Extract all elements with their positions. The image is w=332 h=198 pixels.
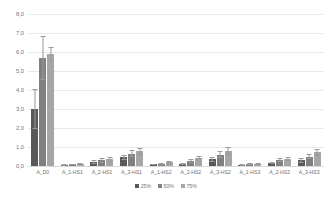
error-bar xyxy=(109,157,110,162)
legend-item[interactable]: 75% xyxy=(181,183,197,189)
error-bar xyxy=(34,89,35,129)
bar-groups xyxy=(28,14,324,166)
y-axis-tick-label: 6,0 xyxy=(0,49,24,55)
bar-group xyxy=(235,14,265,166)
error-bar xyxy=(241,164,242,166)
bar-group xyxy=(117,14,147,166)
bar-slot xyxy=(217,14,224,166)
y-axis-tick-label: 3,0 xyxy=(0,106,24,112)
bar-slot xyxy=(61,14,68,166)
bar-slot xyxy=(158,14,165,166)
gridline xyxy=(28,166,324,167)
bar-slot xyxy=(187,14,194,166)
error-bar xyxy=(72,164,73,166)
error-bar xyxy=(182,163,183,165)
x-axis-tick-label: A_3-HS2 xyxy=(206,169,236,176)
error-bar xyxy=(42,36,43,80)
error-bar xyxy=(317,149,318,157)
bar-group xyxy=(58,14,88,166)
y-axis-tick-label: 7,0 xyxy=(0,30,24,36)
bar-group xyxy=(28,14,58,166)
bar-slot xyxy=(246,14,253,166)
x-axis-tick-label: A_1-HS1 xyxy=(58,169,88,176)
error-bar xyxy=(101,158,102,163)
error-bar xyxy=(139,148,140,155)
error-bar xyxy=(287,157,288,162)
bar-slot xyxy=(314,14,321,166)
error-bar xyxy=(228,147,229,155)
error-bar xyxy=(169,161,170,164)
bar-slot xyxy=(268,14,275,166)
x-axis-tick-label: A_D0 xyxy=(28,169,58,176)
bar-group xyxy=(206,14,236,166)
error-bar xyxy=(257,163,258,165)
error-bar xyxy=(212,157,213,162)
error-bar xyxy=(271,162,272,165)
error-bar xyxy=(309,154,310,160)
bar-slot xyxy=(284,14,291,166)
bar-slot xyxy=(69,14,76,166)
bar-slot xyxy=(254,14,261,166)
error-bar xyxy=(161,163,162,165)
bar-slot xyxy=(136,14,143,166)
bar-group xyxy=(87,14,117,166)
bar-slot xyxy=(77,14,84,166)
bar-group xyxy=(265,14,295,166)
error-bar xyxy=(220,151,221,159)
x-axis-tick-label: A_3-HS1 xyxy=(117,169,147,176)
legend-swatch-icon xyxy=(181,184,185,188)
bar-slot xyxy=(98,14,105,166)
chart-legend: 25%50%75% xyxy=(0,183,332,189)
error-bar xyxy=(198,156,199,161)
x-axis-tick-label: A_2-HS1 xyxy=(87,169,117,176)
bar-slot xyxy=(306,14,313,166)
x-axis-tick-label: A_1-HS2 xyxy=(146,169,176,176)
error-bar xyxy=(93,160,94,164)
y-axis-tick-label: 4,0 xyxy=(0,87,24,93)
bar-slot xyxy=(90,14,97,166)
error-bar xyxy=(249,163,250,165)
bar-slot xyxy=(128,14,135,166)
error-bar xyxy=(50,47,51,60)
error-bar xyxy=(190,159,191,163)
error-bar xyxy=(153,164,154,166)
bar-chart: 0,01,02,03,04,05,06,07,08,0 A_D0A_1-HS1A… xyxy=(0,0,332,198)
y-axis-tick-label: 2,0 xyxy=(0,125,24,131)
bar-slot xyxy=(209,14,216,166)
x-axis-tick-label: A_2-HS3 xyxy=(265,169,295,176)
bar-slot xyxy=(106,14,113,166)
bar-slot xyxy=(179,14,186,166)
error-bar xyxy=(80,163,81,165)
bar-slot xyxy=(39,14,46,166)
y-axis-tick-label: 5,0 xyxy=(0,68,24,74)
bar-slot xyxy=(238,14,245,166)
bar[interactable] xyxy=(47,54,54,166)
bar-slot xyxy=(225,14,232,166)
bar-group xyxy=(146,14,176,166)
y-axis-tick-label: 1,0 xyxy=(0,144,24,150)
bar-group xyxy=(294,14,324,166)
bar-slot xyxy=(166,14,173,166)
error-bar xyxy=(123,155,124,161)
bar-slot xyxy=(120,14,127,166)
legend-item[interactable]: 50% xyxy=(158,183,174,189)
error-bar xyxy=(279,158,280,162)
bar-slot xyxy=(150,14,157,166)
error-bar xyxy=(131,150,132,157)
bar-slot xyxy=(31,14,38,166)
x-axis-tick-label: A_2-HS2 xyxy=(176,169,206,176)
legend-label: 25% xyxy=(141,183,151,189)
bar-slot xyxy=(47,14,54,166)
bar-slot xyxy=(276,14,283,166)
y-axis-tick-label: 0,0 xyxy=(0,163,24,169)
bar-slot xyxy=(298,14,305,166)
error-bar xyxy=(301,158,302,163)
legend-label: 75% xyxy=(186,183,196,189)
legend-label: 50% xyxy=(164,183,174,189)
bar-group xyxy=(176,14,206,166)
error-bar xyxy=(64,164,65,166)
x-axis: A_D0A_1-HS1A_2-HS1A_3-HS1A_1-HS2A_2-HS2A… xyxy=(28,169,324,176)
y-axis-tick-label: 8,0 xyxy=(0,11,24,17)
x-axis-tick-label: A_1-HS3 xyxy=(235,169,265,176)
legend-item[interactable]: 25% xyxy=(135,183,151,189)
